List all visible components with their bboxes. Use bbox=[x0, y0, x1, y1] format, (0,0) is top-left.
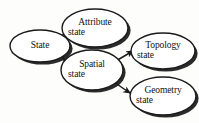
node-geometry-state[interactable] bbox=[130, 77, 196, 115]
diagram-svg bbox=[0, 0, 199, 123]
diagram-canvas: State Attribute state Spatial state Topo… bbox=[0, 0, 199, 123]
node-attribute-state[interactable] bbox=[62, 9, 128, 47]
node-topology-state[interactable] bbox=[131, 33, 195, 69]
node-spatial-state[interactable] bbox=[61, 50, 123, 90]
diagram-nodes bbox=[10, 9, 196, 115]
node-state[interactable] bbox=[10, 30, 70, 62]
edge-spatial-to-geometry bbox=[114, 82, 130, 93]
